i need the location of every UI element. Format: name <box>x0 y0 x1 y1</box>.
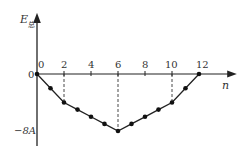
x-axis-label: n <box>222 79 229 92</box>
x-tick-2: 2 <box>61 59 67 70</box>
x-tick-8: 8 <box>142 59 148 70</box>
x-tick-10: 10 <box>165 59 178 70</box>
chart: 0 2 4 6 8 10 12 0 −8A E 总 n <box>0 0 246 153</box>
dashed-guides <box>64 74 172 131</box>
x-tick-6: 6 <box>115 59 121 70</box>
y-axis-subscript: 总 <box>28 20 35 29</box>
x-tick-0: 0 <box>38 59 44 70</box>
x-tick-12: 12 <box>196 59 209 70</box>
y-axis-label: E <box>19 13 28 26</box>
y-tick-0: 0 <box>28 69 34 80</box>
y-tick-min: −8A <box>14 125 36 136</box>
data-line <box>37 74 199 131</box>
x-tick-4: 4 <box>88 59 94 70</box>
